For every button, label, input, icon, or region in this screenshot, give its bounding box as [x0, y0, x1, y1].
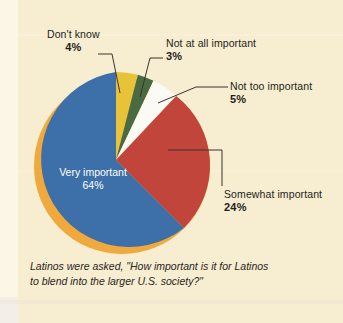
- caption-line-1: Latinos were asked, "How important is it…: [30, 259, 320, 274]
- slice-label-not-too-important: Not too important 5%: [230, 81, 312, 105]
- slice-label-text: Don't know: [47, 29, 100, 41]
- caption-line-2: to blend into the larger U.S. society?": [30, 274, 320, 289]
- slice-label-value: 3%: [166, 50, 256, 62]
- slice-label-value: 5%: [230, 93, 312, 105]
- pie-slices: [41, 72, 210, 247]
- chart-caption: Latinos were asked, "How important is it…: [30, 259, 320, 289]
- slice-label-not-at-all-important: Not at all important 3%: [166, 38, 256, 62]
- chart-page: Don't know 4% Not at all important 3% No…: [0, 0, 343, 323]
- slice-label-somewhat-important: Somewhat important 24%: [224, 189, 322, 213]
- slice-label-value: 24%: [224, 201, 322, 213]
- slice-label-dont-know: Don't know 4%: [47, 29, 100, 53]
- slice-label-text: Somewhat important: [224, 189, 322, 201]
- slice-label-text: Not at all important: [166, 38, 256, 50]
- slice-label-text: Not too important: [230, 81, 312, 93]
- slice-label-value: 4%: [47, 41, 100, 53]
